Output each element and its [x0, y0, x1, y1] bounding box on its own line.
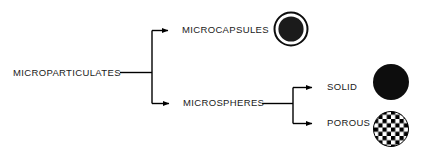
microcapsule-glyph: [275, 13, 308, 46]
node-label-microspheres: MICROSPHERES: [183, 98, 264, 108]
node-label-microparticulates: MICROPARTICULATES: [13, 68, 121, 78]
diagram-canvas: MICROPARTICULATES MICROCAPSULES MICROSPH…: [0, 0, 430, 155]
porous-sphere-glyph: [374, 112, 409, 147]
node-label-porous: POROUS: [327, 118, 370, 128]
node-label-solid: SOLID: [327, 82, 357, 92]
node-label-microcapsules: MICROCAPSULES: [182, 25, 269, 35]
solid-sphere-glyph: [373, 64, 409, 100]
